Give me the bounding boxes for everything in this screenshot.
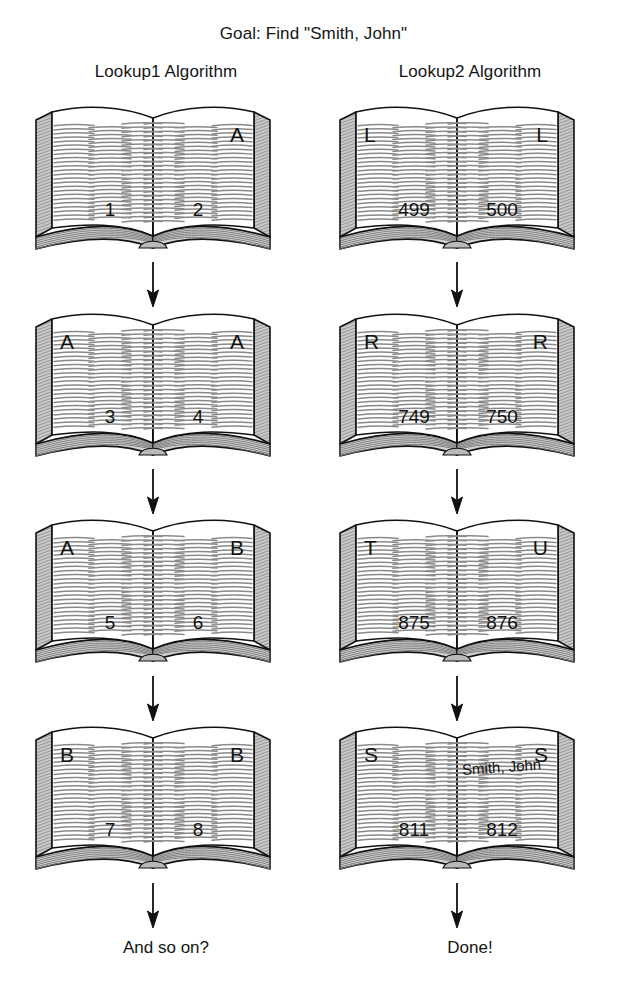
down-arrow-icon xyxy=(437,883,477,929)
page-letter-right-lookup2-3: U xyxy=(522,537,548,558)
book-step-lookup2-3: TU875876 xyxy=(326,509,588,685)
flow-arrow-lookup2-1 xyxy=(437,262,477,308)
page-letter-left-lookup2-2: R xyxy=(364,331,379,352)
page-letter-right-lookup2-1: L xyxy=(522,124,548,145)
column-header-lookup2: Lookup2 Algorithm xyxy=(330,62,610,82)
page-letter-left-lookup2-4: S xyxy=(364,744,378,765)
page-number-left-lookup2-3: 875 xyxy=(384,613,444,632)
page-letter-right-lookup2-2: R xyxy=(522,331,548,352)
page-number-left-lookup1-3: 5 xyxy=(80,613,140,632)
page-number-left-lookup1-4: 7 xyxy=(80,820,140,839)
page-number-right-lookup2-4: 812 xyxy=(472,820,532,839)
book-step-lookup2-1: LL499500 xyxy=(326,96,588,272)
page-letter-right-lookup1-3: B xyxy=(218,537,244,558)
diagram-root: Goal: Find "Smith, John" Lookup1 Algorit… xyxy=(0,0,627,998)
page-letter-left-lookup2-3: T xyxy=(364,537,377,558)
flow-arrow-lookup2-4 xyxy=(437,883,477,929)
page-number-right-lookup1-4: 8 xyxy=(168,820,228,839)
book-step-lookup1-4: BB78 xyxy=(22,716,284,892)
flow-arrow-lookup1-4 xyxy=(133,883,173,929)
goal-title: Goal: Find "Smith, John" xyxy=(0,24,627,44)
page-letter-left-lookup1-3: A xyxy=(60,537,74,558)
page-letter-right-lookup1-2: A xyxy=(218,331,244,352)
page-letter-left-lookup1-4: B xyxy=(60,744,74,765)
page-letter-right-lookup1-1: A xyxy=(218,124,244,145)
page-number-right-lookup1-2: 4 xyxy=(168,407,228,426)
page-number-right-lookup2-3: 876 xyxy=(472,613,532,632)
book-step-lookup1-1: A12 xyxy=(22,96,284,272)
down-arrow-icon xyxy=(133,883,173,929)
book-step-lookup2-2: RR749750 xyxy=(326,303,588,479)
page-number-right-lookup1-3: 6 xyxy=(168,613,228,632)
page-number-left-lookup2-2: 749 xyxy=(384,407,444,426)
page-number-right-lookup1-1: 2 xyxy=(168,200,228,219)
down-arrow-icon xyxy=(133,262,173,308)
page-number-left-lookup2-4: 811 xyxy=(384,820,444,839)
caption-lookup2: Done! xyxy=(330,938,610,958)
page-number-left-lookup2-1: 499 xyxy=(384,200,444,219)
page-letter-left-lookup1-2: A xyxy=(60,331,74,352)
page-number-right-lookup2-1: 500 xyxy=(472,200,532,219)
book-step-lookup1-2: AA34 xyxy=(22,303,284,479)
book-step-lookup1-3: AB56 xyxy=(22,509,284,685)
down-arrow-icon xyxy=(437,262,477,308)
caption-lookup1: And so on? xyxy=(26,938,306,958)
column-header-lookup1: Lookup1 Algorithm xyxy=(26,62,306,82)
page-letter-right-lookup1-4: B xyxy=(218,744,244,765)
book-step-lookup2-4: SS811812Smith, John xyxy=(326,716,588,892)
page-number-right-lookup2-2: 750 xyxy=(472,407,532,426)
page-number-left-lookup1-1: 1 xyxy=(80,200,140,219)
flow-arrow-lookup1-1 xyxy=(133,262,173,308)
page-number-left-lookup1-2: 3 xyxy=(80,407,140,426)
page-letter-left-lookup2-1: L xyxy=(364,124,376,145)
open-book-icon xyxy=(22,96,284,272)
